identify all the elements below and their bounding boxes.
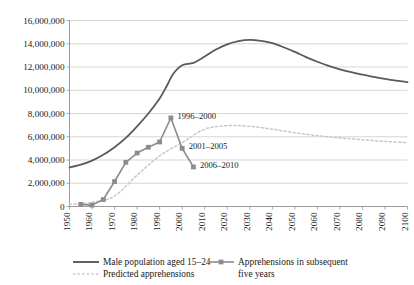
annotation-label: 2006–2010	[200, 160, 239, 170]
x-tick-label: 1960	[84, 212, 94, 231]
data-point-marker	[78, 202, 83, 207]
x-tick-label: 1970	[107, 212, 117, 231]
x-tick-label: 2000	[174, 212, 184, 231]
x-tick-label: 2060	[309, 212, 319, 231]
x-tick-label: 2040	[264, 212, 274, 231]
male-population-line	[70, 40, 408, 168]
series-apprehensions	[78, 116, 195, 208]
apprehensions-line	[81, 118, 194, 205]
data-point-marker	[180, 146, 185, 151]
series-male-population	[70, 40, 408, 168]
x-tick-label: 1980	[129, 212, 139, 231]
gridlines	[70, 21, 408, 207]
x-tick-label: 2090	[377, 212, 387, 231]
data-point-marker	[157, 140, 162, 145]
x-tick-label: 2010	[197, 212, 207, 231]
y-axis-tick-labels: 02,000,0004,000,0006,000,0008,000,00010,…	[23, 16, 69, 212]
data-point-marker	[112, 179, 117, 184]
legend-label-apprehensions-line2: five years	[238, 269, 275, 279]
y-tick-label: 8,000,000	[28, 109, 65, 119]
chart-legend: Male population aged 15–24Predicted appr…	[73, 257, 348, 279]
data-point-marker	[90, 203, 95, 208]
legend-label-predicted-apprehensions: Predicted apprehensions	[103, 269, 195, 279]
data-point-marker	[123, 160, 128, 165]
y-tick-label: 14,000,000	[23, 39, 65, 49]
line-chart: 02,000,0004,000,0006,000,0008,000,00010,…	[0, 0, 414, 285]
y-tick-label: 4,000,000	[28, 155, 65, 165]
x-tick-label: 2050	[287, 212, 297, 231]
legend-label-male-population: Male population aged 15–24	[103, 257, 211, 267]
y-tick-label: 12,000,000	[23, 62, 65, 72]
x-tick-label: 1990	[152, 212, 162, 231]
data-point-marker	[191, 165, 196, 170]
x-tick-label: 2070	[332, 212, 342, 231]
legend-swatch-marker	[219, 260, 224, 265]
x-tick-label: 2020	[219, 212, 229, 231]
annotation-label: 2001–2005	[189, 141, 228, 151]
y-tick-label: 0	[60, 202, 65, 212]
data-point-marker	[146, 145, 151, 150]
y-tick-label: 16,000,000	[23, 16, 65, 26]
y-tick-label: 2,000,000	[28, 178, 65, 188]
data-point-marker	[101, 197, 106, 202]
annotation-label: 1996–2000	[177, 111, 216, 121]
y-tick-label: 10,000,000	[23, 85, 65, 95]
data-point-marker	[169, 116, 174, 121]
x-tick-label: 2100	[400, 212, 410, 231]
data-point-marker	[135, 151, 140, 156]
x-axis-tick-labels: 1950196019701980199020002010202020302040…	[62, 207, 410, 231]
legend-label-apprehensions: Apprehensions in subsequent	[238, 257, 348, 267]
chart-container: 02,000,0004,000,0006,000,0008,000,00010,…	[0, 0, 414, 285]
x-tick-label: 1950	[62, 212, 72, 231]
y-tick-label: 6,000,000	[28, 132, 65, 142]
x-tick-label: 2030	[242, 212, 252, 231]
x-tick-label: 2080	[354, 212, 364, 231]
